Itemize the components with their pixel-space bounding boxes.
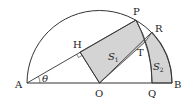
label-theta: θ — [42, 73, 48, 84]
label-q: Q — [148, 88, 156, 99]
label-a: A — [14, 79, 23, 90]
label-o: O — [95, 88, 103, 99]
label-p: P — [133, 6, 140, 17]
label-r: R — [155, 23, 163, 34]
label-b: B — [174, 79, 181, 90]
geometry-diagram: A B O Q P R H T θ S1 S2 — [0, 0, 191, 102]
label-h: H — [73, 39, 82, 50]
label-t: T — [137, 47, 144, 58]
angle-theta-arc — [38, 77, 40, 84]
